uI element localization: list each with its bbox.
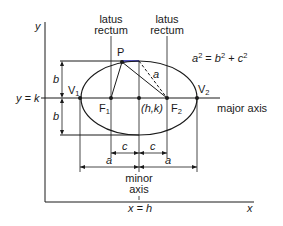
a-right-label: a bbox=[165, 154, 171, 166]
arrowhead bbox=[139, 151, 144, 155]
point-f1 bbox=[109, 96, 113, 100]
hyp-a-label: a bbox=[153, 68, 159, 80]
arrowhead bbox=[60, 98, 64, 103]
arrowhead bbox=[139, 165, 144, 169]
arrowhead bbox=[192, 165, 197, 169]
arrowhead bbox=[134, 151, 139, 155]
arrowhead bbox=[60, 61, 64, 66]
minor-axis-label-2: axis bbox=[129, 183, 149, 195]
p-to-f2 bbox=[122, 62, 167, 98]
arrowhead bbox=[60, 93, 64, 98]
arrowhead bbox=[80, 165, 85, 169]
arrowhead bbox=[60, 130, 64, 135]
point-center bbox=[137, 96, 141, 100]
ellipse-diagram: y x y = k x = h latus rectum latus rectu… bbox=[0, 0, 283, 226]
center-label: (h,k) bbox=[141, 102, 163, 114]
b-upper-label: b bbox=[53, 73, 59, 85]
c-right-label: c bbox=[150, 140, 156, 152]
point-f2 bbox=[165, 96, 169, 100]
point-v2 bbox=[195, 96, 199, 100]
latus-rectum-left-label-2: rectum bbox=[94, 24, 128, 36]
latus-rectum-right-label-2: rectum bbox=[150, 24, 184, 36]
p-to-f1 bbox=[111, 62, 122, 98]
f2-label: F2 bbox=[171, 102, 182, 116]
major-axis-label: major axis bbox=[217, 102, 268, 114]
x-axis-label: x bbox=[246, 202, 253, 214]
point-p-label: P bbox=[117, 46, 124, 58]
f1-label: F1 bbox=[99, 102, 110, 116]
arrowhead bbox=[134, 165, 139, 169]
b-lower-label: b bbox=[53, 110, 59, 122]
a-left-label: a bbox=[106, 154, 112, 166]
y-axis-label: y bbox=[34, 20, 42, 32]
x-eq-h-label: x = h bbox=[127, 202, 152, 214]
v1-label: V1 bbox=[68, 84, 80, 98]
v2-label: V2 bbox=[198, 83, 210, 97]
y-eq-k-label: y = k bbox=[15, 92, 40, 104]
point-p bbox=[120, 60, 124, 64]
c-left-label: c bbox=[122, 140, 128, 152]
equation-label: a2 = b2 + c2 bbox=[192, 51, 247, 64]
